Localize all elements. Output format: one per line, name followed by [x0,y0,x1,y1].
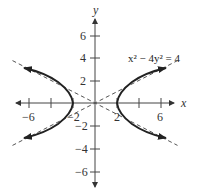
x-tick-label-pos2: 2 [114,110,120,124]
x-tick-label-neg6: −6 [22,110,35,124]
y-tick-label-neg2: −2 [75,119,88,133]
y-tick-label-6: 6 [80,29,86,43]
y-axis-label: y [92,3,99,17]
hyperbola-plot: y x x² − 4y² = 4 −6 −2 2 6 6 4 2 −2 −4 −… [0,0,197,193]
y-tick-label-2: 2 [80,74,86,88]
right-branch-upper [117,68,166,103]
equation-label: x² − 4y² = 4 [128,52,181,64]
left-branch-upper [24,68,73,103]
x-tick-label-pos6: 6 [157,110,163,124]
x-axis-label: x [180,96,187,110]
y-tick-label-neg6: −6 [75,165,88,179]
y-tick-label-4: 4 [80,51,86,65]
y-tick-label-neg4: −4 [75,142,88,156]
